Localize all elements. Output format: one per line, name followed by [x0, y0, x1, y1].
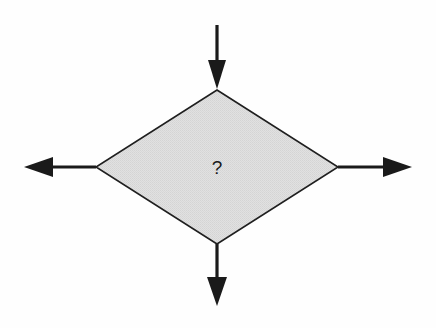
outbound-left-arrow	[24, 157, 96, 177]
decision-label: ?	[212, 157, 223, 178]
diagram-canvas: ?	[0, 0, 436, 328]
outbound-right-arrow	[338, 157, 412, 177]
outbound-right-arrowhead	[383, 157, 412, 177]
flowchart-diagram: ?	[0, 0, 436, 328]
inbound-top-arrow	[208, 25, 226, 89]
inbound-top-arrowhead	[208, 60, 226, 89]
outbound-bottom-arrowhead	[207, 277, 227, 306]
outbound-left-arrowhead	[24, 157, 53, 177]
outbound-bottom-arrow	[207, 244, 227, 306]
